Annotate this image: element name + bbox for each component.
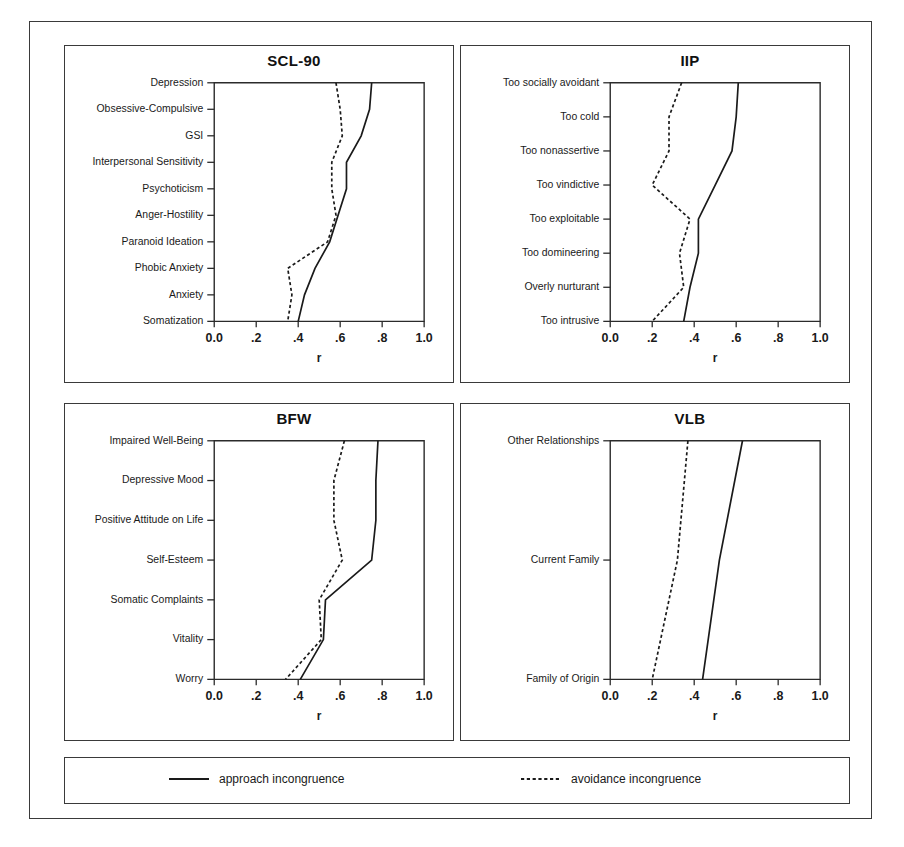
x-axis-tick-label: .6 [731,689,741,703]
series-approach-incongruence [684,83,739,322]
y-axis-label: Phobic Anxiety [135,262,204,273]
legend: approach incongruence avoidance incongru… [64,757,850,804]
x-axis-tick-label: 0.0 [206,331,223,345]
y-axis-label: Too domineering [522,247,599,258]
plot-border [610,441,820,680]
panel-scl90: SCL-90 DepressionObsessive-CompulsiveGSI… [64,45,454,383]
x-axis-tick-label: 0.0 [206,689,223,703]
y-axis-label: Anger-Hostility [135,209,204,220]
x-axis-title: r [713,351,718,365]
x-axis-title: r [317,709,322,723]
y-axis-label: Somatization [143,315,204,326]
y-axis-label: Depressive Mood [122,474,203,485]
y-axis-label: Worry [176,673,204,684]
plot-area-scl90: DepressionObsessive-CompulsiveGSIInterpe… [65,46,453,382]
legend-item-avoidance-incongruence: avoidance incongruence [520,772,701,786]
y-axis-label: Self-Esteem [146,554,203,565]
series-approach-incongruence [300,441,378,680]
x-axis-tick-label: .2 [251,689,261,703]
legend-item-approach-incongruence: approach incongruence [168,772,344,786]
plot-area-vlb: Other RelationshipsCurrent FamilyFamily … [461,404,849,740]
x-axis-title: r [317,351,322,365]
legend-label-avoidance: avoidance incongruence [571,772,701,786]
x-axis-tick-label: .2 [647,689,657,703]
x-axis-tick-label: .8 [377,331,387,345]
y-axis-label: Other Relationships [508,435,600,446]
series-avoidance-incongruence [652,83,690,322]
series-approach-incongruence [703,441,743,680]
x-axis-tick-label: .8 [773,689,783,703]
y-axis-label: Depression [150,77,203,88]
y-axis-label: GSI [185,130,203,141]
y-axis-label: Overly nurturant [524,281,599,292]
x-axis-tick-label: .4 [689,689,699,703]
x-axis-tick-label: .2 [647,331,657,345]
y-axis-label: Interpersonal Sensitivity [92,156,204,167]
y-axis-label: Too nonassertive [520,145,599,156]
y-axis-label: Current Family [531,554,600,565]
x-axis-tick-label: .8 [377,689,387,703]
x-axis-tick-label: 0.0 [602,331,619,345]
panel-iip: IIP Too socially avoidantToo coldToo non… [460,45,850,383]
x-axis-tick-label: .4 [293,689,303,703]
y-axis-label: Too cold [560,111,599,122]
x-axis-tick-label: 0.0 [602,689,619,703]
y-axis-label: Paranoid Ideation [121,236,203,247]
y-axis-label: Obsessive-Compulsive [97,103,204,114]
x-axis-tick-label: .2 [251,331,261,345]
series-avoidance-incongruence [652,441,688,680]
series-avoidance-incongruence [288,83,343,322]
series-avoidance-incongruence [286,441,345,680]
y-axis-label: Positive Attitude on Life [95,514,204,525]
figure-outer-frame: SCL-90 DepressionObsessive-CompulsiveGSI… [29,21,872,819]
plot-border [610,83,820,322]
panel-bfw: BFW Impaired Well-BeingDepressive MoodPo… [64,403,454,741]
y-axis-label: Too socially avoidant [503,77,599,88]
x-axis-tick-label: 1.0 [416,331,433,345]
y-axis-label: Family of Origin [526,673,599,684]
plot-border [214,83,424,322]
x-axis-tick-label: .6 [731,331,741,345]
x-axis-tick-label: .4 [293,331,303,345]
x-axis-tick-label: .6 [335,331,345,345]
y-axis-label: Too exploitable [530,213,600,224]
plot-border [214,441,424,680]
x-axis-tick-label: .8 [773,331,783,345]
x-axis-tick-label: .6 [335,689,345,703]
x-axis-tick-label: .4 [689,331,699,345]
x-axis-title: r [713,709,718,723]
panel-vlb: VLB Other RelationshipsCurrent FamilyFam… [460,403,850,741]
y-axis-label: Somatic Complaints [110,594,203,605]
y-axis-label: Vitality [173,633,204,644]
y-axis-label: Anxiety [169,289,204,300]
series-approach-incongruence [298,83,371,322]
y-axis-label: Too intrusive [541,315,600,326]
x-axis-tick-label: 1.0 [812,331,829,345]
solid-line-icon [168,774,210,784]
y-axis-label: Impaired Well-Being [109,435,203,446]
dashed-line-icon [520,774,562,784]
y-axis-label: Psychoticism [142,183,203,194]
y-axis-label: Too vindictive [537,179,600,190]
plot-area-iip: Too socially avoidantToo coldToo nonasse… [461,46,849,382]
legend-label-approach: approach incongruence [219,772,344,786]
plot-area-bfw: Impaired Well-BeingDepressive MoodPositi… [65,404,453,740]
x-axis-tick-label: 1.0 [416,689,433,703]
x-axis-tick-label: 1.0 [812,689,829,703]
